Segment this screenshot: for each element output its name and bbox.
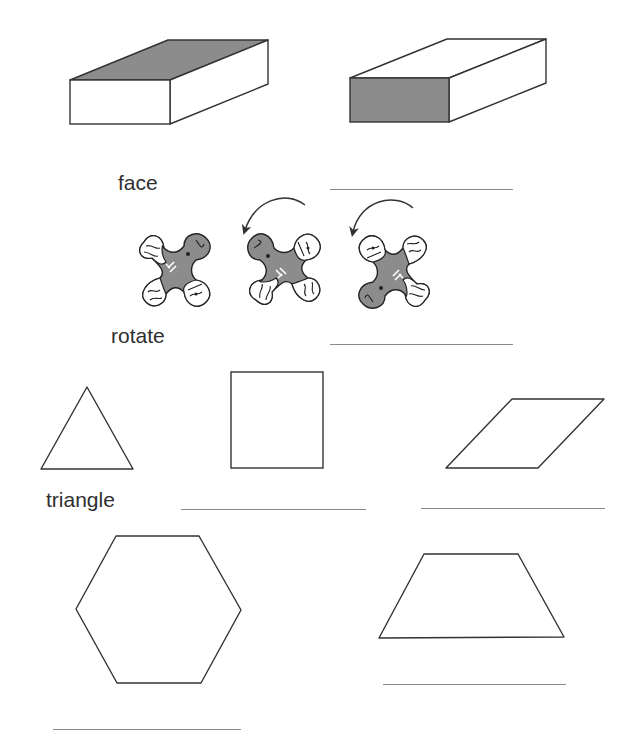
answer-blank-parallelogram[interactable]	[421, 508, 605, 509]
pinwheel-piece-2	[248, 234, 320, 304]
pinwheel-piece-3	[359, 236, 429, 308]
parallelogram-shape	[446, 399, 604, 468]
answer-blank-prism[interactable]	[330, 189, 513, 190]
trapezoid-shape	[379, 554, 564, 638]
triangle-shape	[41, 387, 133, 469]
label-rotate: rotate	[111, 325, 165, 346]
label-face: face	[118, 172, 158, 193]
answer-blank-hexagon[interactable]	[53, 729, 241, 730]
prism-top-shaded	[70, 40, 268, 124]
square-shape	[231, 372, 323, 468]
answer-blank-square[interactable]	[181, 509, 366, 510]
rotation-arrow-icon-2	[353, 200, 413, 232]
prism-front-shaded	[350, 39, 546, 122]
pinwheel-piece-1	[140, 234, 210, 306]
answer-blank-trapezoid[interactable]	[383, 684, 566, 685]
rotation-arrow-icon-1	[245, 198, 305, 230]
hexagon-shape	[76, 536, 241, 683]
answer-blank-rotate[interactable]	[330, 344, 513, 345]
worksheet-canvas	[0, 0, 634, 733]
label-triangle: triangle	[46, 489, 115, 510]
